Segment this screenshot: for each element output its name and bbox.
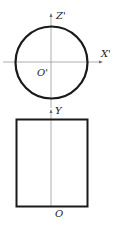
- projection-diagram: Z' X' O' Y O: [0, 0, 118, 230]
- y-arrow-icon: [50, 109, 53, 113]
- x-prime-label: X': [100, 48, 111, 59]
- y-label: Y: [55, 105, 63, 116]
- rectangle-outline: [17, 120, 88, 207]
- z-prime-label: Z': [55, 10, 66, 21]
- front-view: Z' X' O': [3, 10, 111, 108]
- o-prime-label: O': [37, 67, 48, 78]
- x-prime-arrow-icon: [99, 61, 103, 64]
- z-prime-arrow-icon: [50, 13, 53, 17]
- o-label: O: [55, 208, 63, 219]
- circle-outline: [16, 27, 88, 99]
- top-view: Y O: [17, 105, 88, 219]
